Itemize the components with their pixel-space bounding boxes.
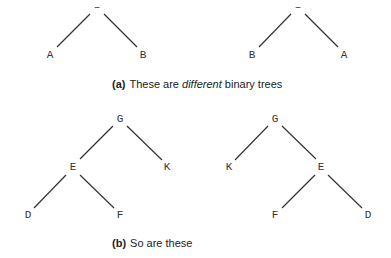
tree-b-right-node-g: G [272, 114, 279, 125]
tree-b-left-edge [127, 126, 162, 160]
tree-a-right-node-b: B [249, 50, 256, 61]
tree-a-left-node-a: A [47, 50, 54, 61]
tree-a-right-node-root: – [295, 2, 302, 13]
tree-b-left-node-f: F [117, 210, 124, 221]
tree-a-right-edge [259, 14, 291, 47]
caption-a-tag: (a) [112, 78, 125, 90]
tree-b-right-node-k: K [226, 162, 233, 173]
tree-b-right-node-e: E [318, 162, 325, 173]
tree-b-left-node-k: K [164, 162, 171, 173]
tree-b-left-node-g: G [117, 114, 124, 125]
tree-edges [0, 0, 391, 258]
tree-b-left-node-d: D [25, 210, 32, 221]
tree-a-left-edge [104, 14, 137, 47]
tree-a-right-edge [305, 14, 338, 47]
tree-a-left-node-b: B [140, 50, 147, 61]
caption-a-emphasis: different [182, 78, 222, 90]
caption-a-pre: These are [129, 78, 182, 90]
tree-b-right-node-f: F [272, 210, 279, 221]
tree-a-left-edge [57, 14, 90, 47]
tree-b-left-edge [80, 175, 114, 208]
tree-a-left-node-root: – [94, 2, 101, 13]
binary-trees-figure: –AB–BAGEKDFGKEFD (a)These are different … [0, 0, 391, 258]
caption-a-post: binary trees [222, 78, 283, 90]
caption-b-text: So are these [130, 237, 192, 249]
tree-b-left-edge [34, 175, 66, 208]
tree-b-right-edge [235, 126, 268, 160]
caption-b: (b)So are these [112, 237, 192, 249]
caption-a: (a)These are different binary trees [112, 78, 282, 90]
tree-a-right-node-a: A [341, 50, 348, 61]
tree-b-right-edge [282, 126, 316, 159]
tree-b-right-edge [282, 175, 315, 208]
tree-b-left-edge [80, 126, 113, 159]
caption-b-tag: (b) [112, 237, 126, 249]
tree-b-right-node-d: D [365, 210, 372, 221]
tree-b-right-edge [328, 175, 362, 208]
tree-b-left-node-e: E [70, 162, 77, 173]
